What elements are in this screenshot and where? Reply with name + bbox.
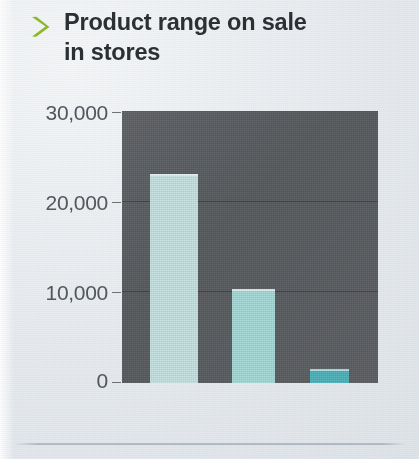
chevron-right-icon [29, 14, 51, 40]
bar-1-highlight [150, 174, 198, 176]
y-tick-mark-30000 [112, 112, 121, 113]
card-bottom-divider [14, 443, 406, 445]
y-tick-label-20000: 20,000 [20, 191, 108, 215]
y-tick-mark-20000 [112, 202, 121, 203]
y-tick-label-30000: 30,000 [20, 101, 108, 125]
bar-1 [150, 174, 198, 383]
plot-area [122, 111, 378, 383]
y-axis-labels: 30,000 20,000 10,000 0 [20, 96, 108, 406]
y-tick-label-0: 0 [20, 369, 108, 393]
bar-3 [310, 369, 349, 383]
bar-2-highlight [232, 289, 275, 291]
card-header: Product range on sale in stores [0, 0, 419, 96]
bar-chart: 30,000 20,000 10,000 0 [0, 96, 419, 406]
y-tick-mark-10000 [112, 292, 121, 293]
bar-3-highlight [310, 369, 349, 371]
y-tick-mark-0 [112, 382, 121, 383]
y-tick-label-10000: 10,000 [20, 281, 108, 305]
bar-2 [232, 289, 275, 383]
page-title: Product range on sale in stores [64, 7, 384, 67]
chart-card: Product range on sale in stores 30,000 2… [0, 0, 419, 459]
